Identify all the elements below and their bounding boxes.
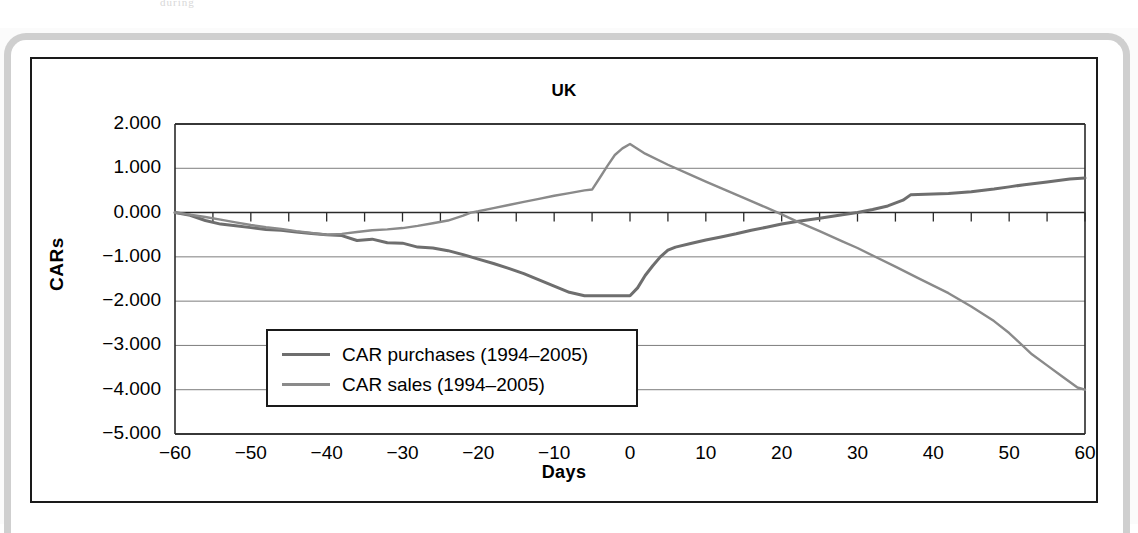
legend-item: CAR purchases (1994–2005) (268, 340, 636, 370)
x-tick-label: 60 (1045, 442, 1125, 464)
y-tick-label: −1.000 (102, 245, 161, 267)
x-tick-label: 10 (666, 442, 746, 464)
scan-artifact-text: during (160, 0, 195, 8)
legend-swatch-icon (282, 353, 330, 356)
x-tick-label: −60 (135, 442, 215, 464)
chart-legend: CAR purchases (1994–2005)CAR sales (1994… (266, 329, 638, 407)
y-tick-label: −3.000 (102, 333, 161, 355)
x-tick-label: −10 (514, 442, 594, 464)
legend-label: CAR purchases (1994–2005) (342, 344, 588, 366)
x-tick-label: 30 (818, 442, 898, 464)
y-tick-label: 2.000 (113, 112, 161, 134)
x-tick-label: 0 (590, 442, 670, 464)
y-tick-label: −2.000 (102, 289, 161, 311)
y-tick-label: −4.000 (102, 378, 161, 400)
x-tick-label: −50 (211, 442, 291, 464)
x-tick-label: −20 (438, 442, 518, 464)
x-tick-label: 50 (969, 442, 1049, 464)
figure-container: UK CARs Days 2.0001.0000.000−1.000−2.000… (30, 57, 1098, 503)
y-tick-label: −5.000 (102, 422, 161, 444)
x-tick-label: 40 (893, 442, 973, 464)
y-tick-label: 0.000 (113, 201, 161, 223)
series-line (175, 178, 1085, 296)
x-tick-label: 20 (742, 442, 822, 464)
y-tick-label: 1.000 (113, 156, 161, 178)
minor-x-ticks (213, 213, 1085, 222)
x-tick-label: −30 (363, 442, 443, 464)
x-tick-label: −40 (287, 442, 367, 464)
chart-plot-area (32, 59, 1096, 501)
legend-swatch-icon (282, 383, 330, 386)
legend-item: CAR sales (1994–2005) (268, 370, 636, 400)
legend-label: CAR sales (1994–2005) (342, 374, 545, 396)
